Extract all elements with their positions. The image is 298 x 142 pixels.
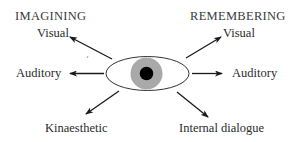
label-internal-dialogue: Internal dialogue: [179, 121, 264, 135]
eye-icon: [106, 57, 189, 91]
label-right-visual: Visual: [223, 26, 255, 40]
arrow-kinaesthetic: [86, 91, 119, 114]
label-left-visual: Visual: [37, 26, 69, 40]
heading-remembering: REMEMBERING: [190, 9, 286, 23]
label-left-auditory: Auditory: [16, 66, 61, 80]
arrow-left-visual: [70, 37, 112, 59]
scan-mark: [87, 56, 88, 58]
arrow-right-visual: [186, 37, 221, 58]
heading-imagining: IMAGINING: [15, 9, 86, 23]
eye-accessing-cues-diagram: IMAGINING REMEMBERING Visual Auditory Ki…: [0, 0, 298, 142]
label-right-auditory: Auditory: [232, 66, 277, 80]
label-kinaesthetic: Kinaesthetic: [45, 121, 107, 135]
arrow-internal-dialogue: [177, 92, 208, 117]
